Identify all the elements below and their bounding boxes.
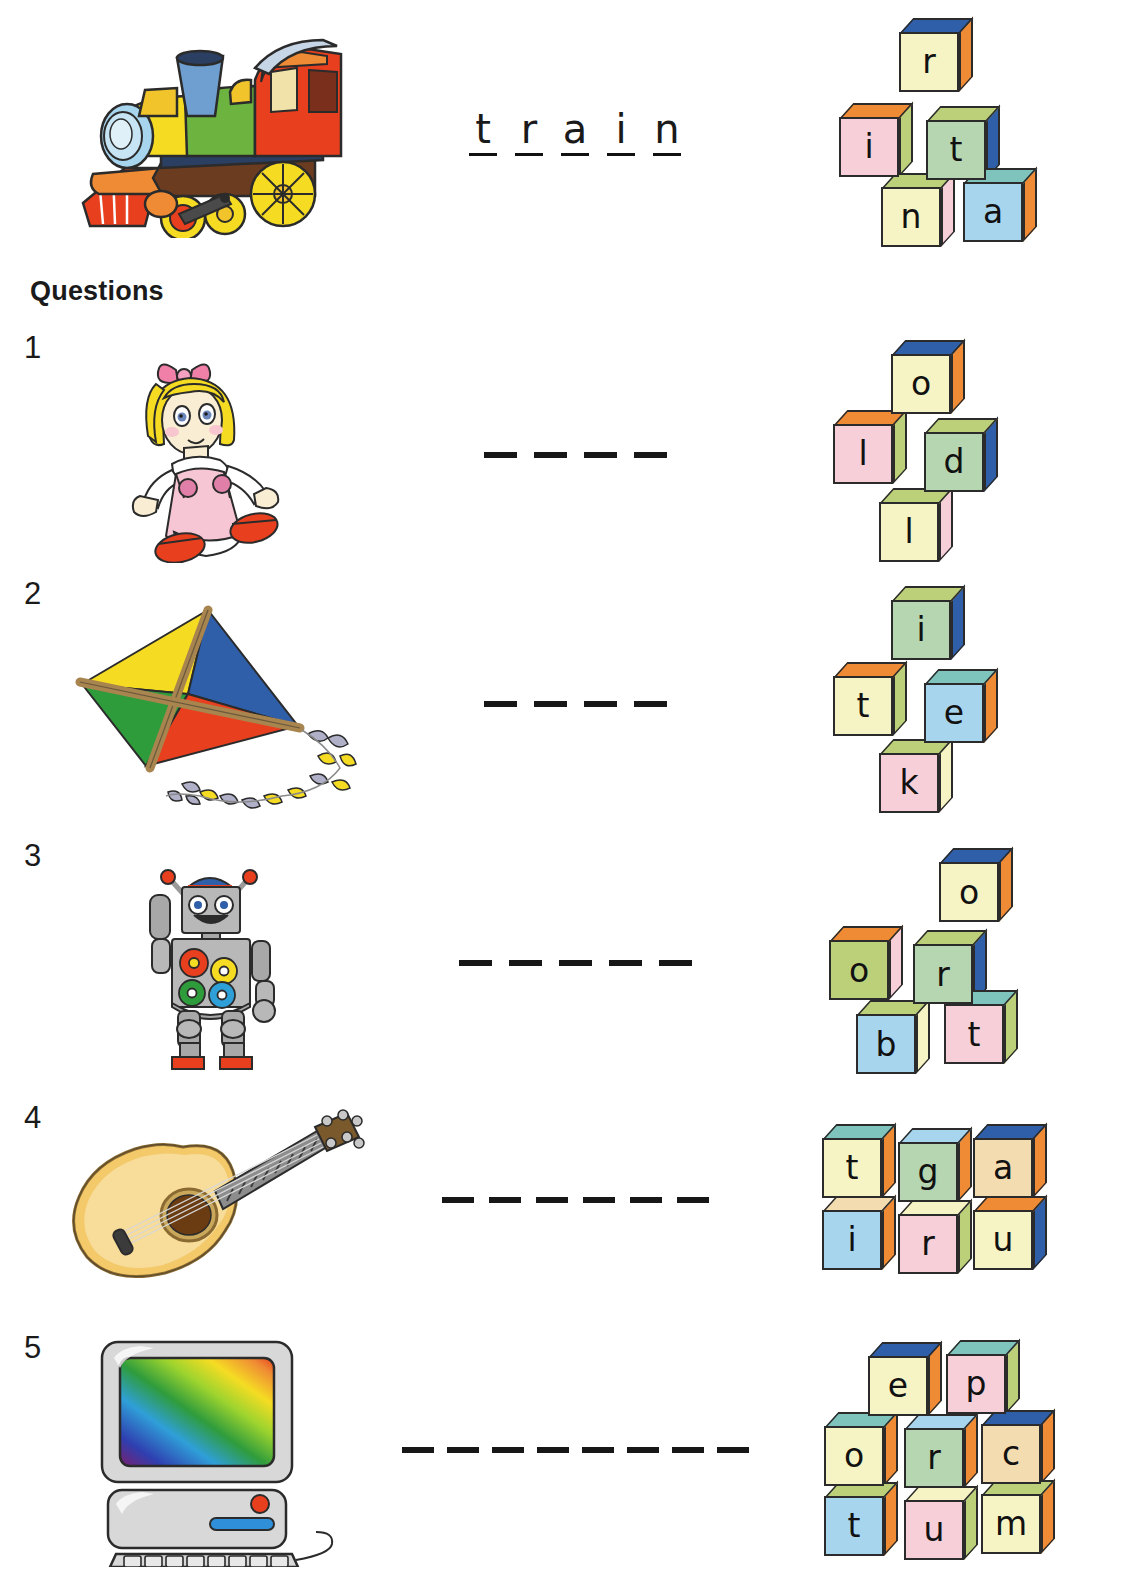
letter-block[interactable]: b — [856, 1000, 930, 1074]
letter-block[interactable]: c — [981, 1410, 1055, 1484]
answer-blanks[interactable] — [442, 1197, 709, 1203]
answer-blank-dash[interactable] — [509, 960, 542, 966]
example-row: t r a i n ritna — [0, 0, 1122, 265]
letter-block-front-face: k — [879, 753, 939, 813]
letter-block-front-face: r — [904, 1428, 964, 1488]
answer-blank-dash[interactable] — [459, 960, 492, 966]
answer-blank-dash[interactable] — [584, 701, 617, 707]
question-row: 4 — [0, 1100, 1122, 1300]
answer-blanks[interactable] — [484, 701, 667, 707]
letter-block-front-face: i — [839, 117, 899, 177]
letter-block[interactable]: r — [898, 1200, 972, 1274]
answer-blank-dash[interactable] — [717, 1447, 749, 1453]
question-picture-cell — [40, 348, 390, 563]
question-blocks-cell: tgairu — [760, 1118, 1122, 1283]
letter-block-front-face: t — [926, 120, 986, 180]
letter-block[interactable]: m — [981, 1480, 1055, 1554]
answer-blank-dash[interactable] — [442, 1197, 474, 1203]
letter-block[interactable]: r — [904, 1414, 978, 1488]
answer-blank-dash[interactable] — [537, 1447, 569, 1453]
answer-blank-dash[interactable] — [559, 960, 592, 966]
letter-block[interactable]: n — [881, 173, 955, 247]
question-picture-cell — [40, 1332, 390, 1567]
example-word-cell: t r a i n — [390, 109, 760, 156]
letter-block-front-face: i — [891, 600, 951, 660]
letter-block[interactable]: t — [822, 1124, 896, 1198]
letter-block[interactable]: e — [924, 669, 998, 743]
letter-block-front-face: g — [898, 1142, 958, 1202]
letter-block[interactable]: i — [891, 586, 965, 660]
letter-block[interactable]: o — [939, 848, 1013, 922]
letter-block[interactable]: g — [898, 1128, 972, 1202]
answer-blank-dash[interactable] — [634, 701, 667, 707]
question-picture-cell — [40, 1105, 390, 1295]
answer-blank-dash[interactable] — [402, 1447, 434, 1453]
answer-blank-dash[interactable] — [672, 1447, 704, 1453]
letter-block[interactable]: o — [891, 340, 965, 414]
letter-block-front-face: o — [824, 1426, 884, 1486]
example-letter: n — [653, 109, 681, 156]
letter-block[interactable]: a — [973, 1124, 1047, 1198]
letter-block[interactable]: d — [924, 418, 998, 492]
answer-blank-dash[interactable] — [659, 960, 692, 966]
questions-heading: Questions — [30, 276, 164, 307]
letter-block-front-face: a — [973, 1138, 1033, 1198]
letter-block[interactable]: u — [973, 1196, 1047, 1270]
letter-block-group: oorbt — [821, 848, 1061, 1078]
letter-block[interactable]: l — [833, 410, 907, 484]
letter-block-front-face: u — [973, 1210, 1033, 1270]
letter-block-front-face: n — [881, 187, 941, 247]
example-letter: r — [515, 109, 543, 156]
example-letter: a — [561, 109, 589, 156]
question-blanks-cell — [390, 1197, 760, 1203]
example-letter: i — [607, 109, 635, 156]
letter-block-front-face: i — [822, 1210, 882, 1270]
letter-block-front-face: b — [856, 1014, 916, 1074]
letter-block[interactable]: t — [824, 1482, 898, 1556]
letter-block-front-face: r — [898, 1214, 958, 1274]
answer-blank-dash[interactable] — [447, 1447, 479, 1453]
letter-block[interactable]: e — [868, 1342, 942, 1416]
answer-blank-dash[interactable] — [534, 701, 567, 707]
answer-blank-dash[interactable] — [484, 701, 517, 707]
answer-blank-dash[interactable] — [634, 452, 667, 458]
answer-blanks[interactable] — [459, 960, 692, 966]
letter-block-group: tgairu — [816, 1118, 1066, 1283]
question-blanks-cell — [390, 960, 760, 966]
letter-block[interactable]: k — [879, 739, 953, 813]
question-number: 1 — [0, 330, 40, 366]
letter-block-front-face: c — [981, 1424, 1041, 1484]
letter-block[interactable]: p — [946, 1340, 1020, 1414]
answer-blank-dash[interactable] — [584, 452, 617, 458]
question-blocks-cell: eporctum — [760, 1340, 1122, 1560]
answer-blank-dash[interactable] — [489, 1197, 521, 1203]
answer-blank-dash[interactable] — [583, 1197, 615, 1203]
train-illustration — [65, 28, 365, 238]
letter-block[interactable]: i — [822, 1196, 896, 1270]
letter-block-front-face: e — [868, 1356, 928, 1416]
answer-blank-dash[interactable] — [536, 1197, 568, 1203]
question-blocks-cell: oorbt — [760, 848, 1122, 1078]
answer-blank-dash[interactable] — [630, 1197, 662, 1203]
answer-blank-dash[interactable] — [582, 1447, 614, 1453]
letter-block[interactable]: o — [829, 926, 903, 1000]
letter-block[interactable]: o — [824, 1412, 898, 1486]
letter-block[interactable]: l — [879, 488, 953, 562]
answer-blank-dash[interactable] — [492, 1447, 524, 1453]
letter-block-group: itek — [821, 584, 1061, 824]
letter-block-front-face: t — [833, 676, 893, 736]
answer-blank-dash[interactable] — [627, 1447, 659, 1453]
computer-illustration — [80, 1332, 350, 1567]
letter-block[interactable]: i — [839, 103, 913, 177]
answer-blank-dash[interactable] — [677, 1197, 709, 1203]
example-picture-cell — [40, 28, 390, 238]
letter-block[interactable]: u — [904, 1486, 978, 1560]
answer-blank-dash[interactable] — [484, 452, 517, 458]
letter-block[interactable]: r — [899, 18, 973, 92]
answer-blanks[interactable] — [484, 452, 667, 458]
letter-block[interactable]: t — [833, 662, 907, 736]
question-picture-cell — [40, 586, 390, 821]
answer-blank-dash[interactable] — [534, 452, 567, 458]
answer-blanks[interactable] — [402, 1447, 749, 1453]
answer-blank-dash[interactable] — [609, 960, 642, 966]
